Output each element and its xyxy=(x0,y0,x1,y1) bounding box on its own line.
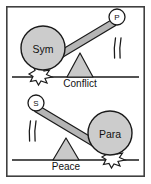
peace-label: Peace xyxy=(52,161,81,172)
diagram-canvas: Sym P Conflict Para S xyxy=(0,0,151,184)
seesaw-diagram-figure: Sym P Conflict Para S xyxy=(0,0,151,184)
conflict-label: Conflict xyxy=(63,78,97,89)
p-badge-label: P xyxy=(114,13,119,22)
s-badge-label: S xyxy=(33,99,38,108)
symmetry-weight-label: Sym xyxy=(33,43,54,55)
parallel-weight-label: Para xyxy=(99,128,121,140)
